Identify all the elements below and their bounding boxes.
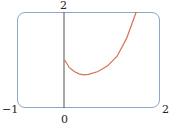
data-curve: [65, 12, 137, 75]
y-tick-2: 2: [60, 0, 67, 11]
x-tick-0: 0: [61, 114, 68, 125]
x-tick-2: 2: [162, 104, 169, 115]
plot-area: [0, 0, 169, 132]
x-tick-neg1: −1: [2, 104, 18, 115]
